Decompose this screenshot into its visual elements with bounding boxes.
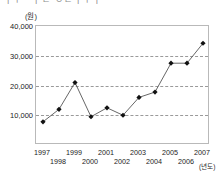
- x-axis-tick-label: 2001: [98, 148, 114, 157]
- data-point-marker: [152, 89, 157, 94]
- page-heading-cropped: ㅣㅜㅡㅣㄹ ㅇㄹㅣㅜㅏ: [4, 0, 102, 6]
- x-axis-unit-label: (년도): [199, 161, 215, 171]
- data-point-marker: [88, 114, 93, 119]
- x-axis-tick-label: 1999: [66, 148, 82, 157]
- data-point-marker: [72, 80, 77, 85]
- x-axis-tick-label: 2002: [114, 157, 130, 166]
- data-point-marker: [168, 61, 173, 66]
- x-axis-tick-label: 2004: [146, 157, 162, 166]
- x-axis-tick-label: 2005: [162, 148, 178, 157]
- data-point-marker: [104, 105, 109, 110]
- x-axis-tick-label: 2000: [82, 157, 98, 166]
- series-line: [43, 43, 203, 122]
- x-axis-tick-label: 1998: [50, 157, 66, 166]
- plot-area: 10,00020,00030,00040,000: [35, 25, 209, 144]
- y-axis-unit-label: (원): [25, 10, 37, 21]
- chart-container: ㅣㅜㅡㅣㄹ ㅇㄹㅣㅜㅏ (원) 10,00020,00030,00040,000…: [0, 0, 224, 180]
- y-axis-tick-label: 40,000: [10, 22, 33, 31]
- x-axis-tick-label: 2003: [130, 148, 146, 157]
- y-axis-tick-label: 30,000: [10, 51, 33, 60]
- line-series: [36, 26, 210, 145]
- x-axis-tick-label: 1997: [34, 148, 50, 157]
- x-axis-tick-label: 2007: [194, 148, 210, 157]
- y-axis-tick-label: 20,000: [10, 81, 33, 90]
- x-axis-tick-label: 2006: [178, 157, 194, 166]
- y-axis-tick-label: 10,000: [10, 111, 33, 120]
